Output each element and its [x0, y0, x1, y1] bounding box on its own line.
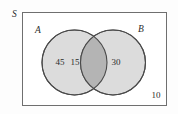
- set-b-label: B: [138, 25, 144, 35]
- universal-set-label: S: [12, 10, 17, 20]
- count-outside-sets: 10: [148, 91, 164, 100]
- count-b-only: 30: [108, 58, 124, 67]
- count-intersection: 15: [67, 58, 83, 67]
- count-a-only: 45: [52, 58, 68, 67]
- venn-diagram-figure: S A B 45 15 30 10: [0, 0, 178, 114]
- set-a-label: A: [35, 26, 41, 36]
